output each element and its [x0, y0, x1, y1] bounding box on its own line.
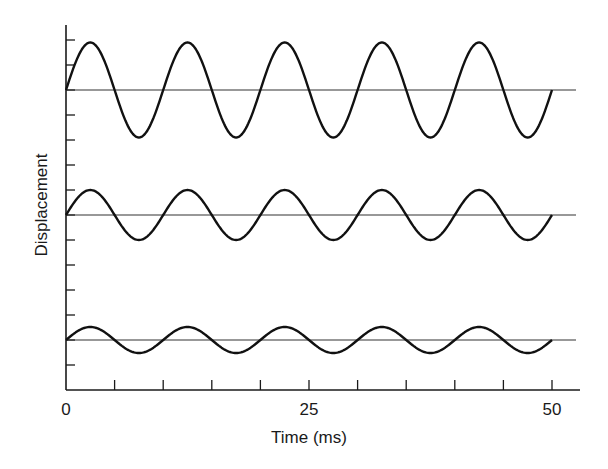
- x-axis: 02550: [61, 380, 580, 419]
- x-tick-label: 25: [300, 400, 319, 419]
- x-tick-label: 0: [61, 400, 70, 419]
- baselines: [66, 90, 576, 340]
- chart: 02550 Time (ms) Displacement: [0, 0, 608, 469]
- x-tick-labels: 02550: [61, 400, 561, 419]
- x-axis-title: Time (ms): [271, 428, 347, 447]
- waves: [66, 43, 552, 354]
- x-ticks: [115, 380, 552, 390]
- x-tick-label: 50: [543, 400, 562, 419]
- y-axis-title: Displacement: [32, 153, 51, 256]
